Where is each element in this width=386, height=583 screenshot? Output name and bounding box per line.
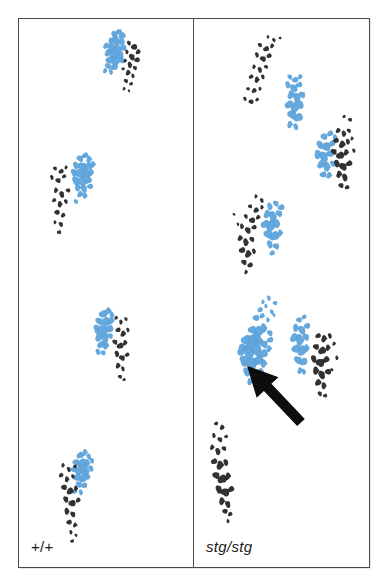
gel-spot (259, 87, 262, 91)
gel-spot (101, 333, 108, 343)
gel-spot (313, 344, 319, 350)
gel-spot (61, 213, 66, 218)
gel-spot (83, 467, 90, 477)
gel-spot (348, 118, 352, 122)
gel-spot (69, 530, 72, 535)
gel-spot (76, 481, 82, 488)
gel-spot (57, 230, 61, 234)
gel-spot (94, 324, 101, 333)
spot-group-wildtype-blue-spots (71, 29, 127, 495)
gel-spot (63, 496, 68, 502)
gel-spot (345, 185, 350, 189)
gel-spot (112, 340, 117, 345)
gel-spot (266, 345, 272, 352)
gel-spot (320, 134, 327, 140)
gel-spot (329, 140, 336, 147)
gel-spot (220, 425, 225, 430)
gel-spot (261, 300, 265, 305)
gel-spot (336, 152, 344, 159)
gel-spot (108, 43, 116, 54)
gel-spot (318, 391, 322, 396)
gel-spot (70, 539, 74, 542)
gel-spot (87, 184, 93, 189)
gel-spot (293, 93, 301, 103)
spot-canvas-wildtype (19, 19, 193, 567)
gel-spot (253, 315, 260, 321)
spot-group-mutant-black-spots (210, 35, 356, 523)
gel-spot (272, 38, 276, 42)
gel-spot (116, 29, 122, 35)
gel-spot (120, 331, 126, 337)
gel-spot (272, 313, 275, 317)
gel-spot (121, 366, 125, 371)
gel-spot (222, 509, 227, 514)
gel-spot (290, 333, 299, 342)
gel-spot (336, 128, 341, 133)
gel-spot (287, 74, 292, 79)
gel-spot (228, 512, 233, 517)
gel-spot (67, 467, 71, 472)
gel-spot (241, 260, 246, 265)
gel-spot (71, 169, 77, 177)
gel-spot (302, 369, 306, 375)
gel-spot (298, 92, 305, 99)
gel-spot (240, 223, 244, 229)
gel-spot (50, 175, 54, 180)
gel-spot (249, 370, 258, 379)
gel-panel-wildtype: +/+ (19, 19, 193, 567)
gel-spot (259, 313, 265, 319)
figure-frame: +/+ stg/stg (18, 18, 370, 568)
gel-spot (127, 41, 131, 46)
gel-spot (97, 341, 105, 349)
gel-spot (110, 312, 115, 319)
gel-spot (89, 458, 93, 464)
gel-spot (252, 248, 256, 254)
gel-spot (82, 152, 89, 158)
gel-spot (342, 174, 347, 182)
gel-spot (72, 176, 79, 185)
gel-spot (59, 473, 64, 478)
gel-spot (74, 486, 78, 492)
gel-spot (328, 333, 332, 338)
gel-spot (326, 150, 334, 157)
gel-spot (315, 333, 321, 338)
gel-spot (99, 310, 108, 318)
gel-spot (71, 466, 78, 472)
gel-spot (115, 327, 120, 332)
pointer-arrow (247, 366, 305, 426)
gel-spot (214, 422, 218, 426)
gel-spot (110, 49, 118, 61)
gel-spot (287, 111, 296, 120)
gel-spot (106, 56, 115, 64)
gel-spot (238, 235, 243, 241)
gel-spot (62, 174, 66, 178)
gel-spot (267, 35, 270, 39)
gel-spot (103, 68, 108, 73)
gel-spot (267, 330, 273, 336)
gel-spot (83, 449, 89, 456)
spot-canvas-mutant (194, 19, 369, 567)
gel-spot (297, 367, 303, 374)
gel-spot (86, 454, 91, 460)
gel-spot (260, 198, 264, 203)
figure-root: +/+ stg/stg (0, 0, 386, 583)
gel-spot (273, 201, 279, 207)
gel-spot (239, 247, 246, 253)
gel-spot (250, 345, 262, 357)
gel-spot (81, 482, 88, 488)
gel-spot (274, 219, 280, 228)
gel-spot (299, 358, 308, 366)
gel-spot (64, 199, 68, 204)
gel-spot (253, 380, 258, 387)
gel-spot (243, 344, 254, 360)
gel-spot (133, 66, 137, 70)
gel-spot (64, 165, 67, 169)
gel-spot (116, 51, 124, 60)
gel-spot (119, 57, 124, 64)
gel-spot (88, 168, 94, 176)
gel-spot (293, 123, 298, 130)
gel-spot (311, 355, 317, 362)
gel-spot (243, 367, 250, 376)
gel-spot (124, 79, 128, 83)
gel-spot (59, 222, 63, 227)
